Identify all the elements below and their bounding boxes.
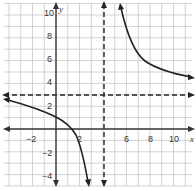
x-tick-label: 8 — [148, 134, 153, 144]
y-tick-label: −4 — [42, 171, 52, 181]
x-tick-label: −2 — [26, 134, 36, 144]
x-tick-label: 10 — [169, 134, 179, 144]
y-tick-label: 8 — [47, 31, 52, 41]
x-tick-label: 6 — [124, 134, 129, 144]
y-axis-label: y — [58, 4, 63, 14]
left-branch-curve — [8, 100, 88, 182]
y-tick-label: 4 — [47, 77, 52, 87]
arrow-right-icon — [188, 92, 195, 98]
arrow-up-icon — [101, 1, 107, 8]
arrow-left-icon — [3, 97, 10, 103]
y-tick-label: 10 — [44, 8, 54, 18]
arrow-right-icon — [188, 74, 195, 80]
y-tick-label: 6 — [47, 54, 52, 64]
arrow-up-icon — [118, 3, 124, 10]
arrow-right-icon — [188, 126, 195, 132]
x-axis-label: x — [189, 134, 194, 144]
arrow-left-icon — [3, 126, 10, 132]
y-tick-label: 2 — [47, 101, 52, 111]
rational-function-graph: y x −2 2 6 8 10 10 8 6 4 2 −2 −4 — [0, 0, 196, 191]
x-tick-label: 2 — [77, 134, 82, 144]
right-branch-curve — [121, 8, 191, 77]
arrow-left-icon — [2, 92, 9, 98]
y-tick-label: −2 — [42, 148, 52, 158]
